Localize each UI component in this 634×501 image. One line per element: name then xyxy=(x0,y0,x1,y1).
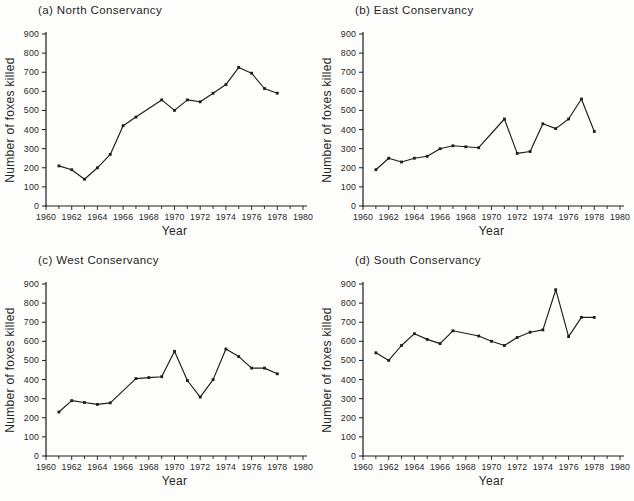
data-point xyxy=(83,178,86,181)
y-tick-label: 200 xyxy=(341,413,356,423)
series-line xyxy=(59,67,277,179)
y-tick-label: 300 xyxy=(24,144,39,154)
data-point xyxy=(542,122,545,125)
x-tick-label: 1980 xyxy=(610,462,630,472)
y-axis-label: Number of foxes killed xyxy=(320,57,334,182)
data-point xyxy=(263,87,266,90)
x-tick-label: 1966 xyxy=(430,462,450,472)
x-tick-label: 1966 xyxy=(113,212,133,222)
x-tick-label: 1976 xyxy=(559,212,579,222)
data-point xyxy=(490,340,493,343)
x-axis-label: Year xyxy=(479,474,504,488)
data-point xyxy=(593,130,596,133)
data-point xyxy=(173,350,176,353)
x-tick-label: 1962 xyxy=(379,462,399,472)
data-point xyxy=(237,66,240,69)
data-point xyxy=(593,316,596,319)
x-tick-label: 1970 xyxy=(481,462,501,472)
y-tick-label: 300 xyxy=(341,394,356,404)
x-tick-label: 1960 xyxy=(36,462,56,472)
y-tick-label: 900 xyxy=(24,279,39,289)
data-point xyxy=(160,99,163,102)
x-tick-label: 1964 xyxy=(404,212,424,222)
data-point xyxy=(122,124,125,127)
data-point xyxy=(413,332,416,335)
data-point xyxy=(109,402,112,405)
data-point xyxy=(503,118,506,121)
x-tick-label: 1960 xyxy=(353,212,373,222)
data-point xyxy=(426,338,429,341)
y-tick-label: 200 xyxy=(24,163,39,173)
x-tick-label: 1962 xyxy=(62,462,82,472)
x-tick-label: 1964 xyxy=(404,462,424,472)
data-point xyxy=(109,153,112,156)
x-tick-label: 1978 xyxy=(267,212,287,222)
y-tick-label: 600 xyxy=(24,336,39,346)
y-tick-label: 300 xyxy=(341,144,356,154)
data-point xyxy=(375,168,378,171)
data-point xyxy=(70,168,73,171)
data-point xyxy=(263,367,266,370)
y-axis-label: Number of foxes killed xyxy=(3,57,17,182)
data-point xyxy=(225,348,228,351)
x-axis-label: Year xyxy=(162,224,187,238)
x-tick-label: 1972 xyxy=(190,212,210,222)
data-point xyxy=(400,161,403,164)
y-tick-label: 0 xyxy=(34,451,39,461)
x-tick-label: 1966 xyxy=(113,462,133,472)
data-point xyxy=(387,359,390,362)
x-tick-label: 1964 xyxy=(87,212,107,222)
data-point xyxy=(135,116,138,119)
x-tick-label: 1978 xyxy=(584,462,604,472)
data-point xyxy=(439,147,442,150)
y-axis-label: Number of foxes killed xyxy=(3,307,17,432)
y-tick-label: 700 xyxy=(341,317,356,327)
y-tick-label: 600 xyxy=(341,336,356,346)
data-point xyxy=(186,379,189,382)
series-line xyxy=(376,290,594,361)
data-point xyxy=(503,344,506,347)
data-point xyxy=(580,98,583,101)
data-point xyxy=(147,376,150,379)
y-tick-label: 400 xyxy=(24,375,39,385)
data-point xyxy=(212,378,215,381)
x-tick-label: 1968 xyxy=(456,462,476,472)
x-tick-label: 1972 xyxy=(507,462,527,472)
y-tick-label: 100 xyxy=(24,182,39,192)
x-tick-label: 1980 xyxy=(293,462,313,472)
x-tick-label: 1974 xyxy=(533,462,553,472)
series-line xyxy=(59,349,277,412)
data-point xyxy=(70,399,73,402)
x-tick-label: 1968 xyxy=(139,212,159,222)
x-tick-label: 1970 xyxy=(164,212,184,222)
y-tick-label: 500 xyxy=(24,105,39,115)
y-tick-label: 200 xyxy=(341,163,356,173)
x-tick-label: 1976 xyxy=(559,462,579,472)
y-tick-label: 800 xyxy=(24,48,39,58)
data-point xyxy=(452,329,455,332)
data-point xyxy=(516,336,519,339)
x-tick-label: 1970 xyxy=(164,462,184,472)
y-tick-label: 100 xyxy=(341,182,356,192)
data-point xyxy=(250,72,253,75)
data-point xyxy=(400,344,403,347)
data-point xyxy=(173,109,176,112)
chart-plot-north: 0100200300400500600700800900196019621964… xyxy=(0,0,317,250)
data-point xyxy=(199,100,202,103)
y-tick-label: 800 xyxy=(341,48,356,58)
x-tick-label: 1974 xyxy=(216,212,236,222)
data-point xyxy=(225,83,228,86)
y-tick-label: 100 xyxy=(24,432,39,442)
chart-panel-east: (b) East Conservancy 0100200300400500600… xyxy=(317,0,634,250)
y-tick-label: 0 xyxy=(34,201,39,211)
chart-panel-west: (c) West Conservancy 0100200300400500600… xyxy=(0,250,317,501)
x-tick-label: 1960 xyxy=(353,462,373,472)
x-tick-label: 1978 xyxy=(584,212,604,222)
data-point xyxy=(199,396,202,399)
x-axis-label: Year xyxy=(479,224,504,238)
x-tick-label: 1974 xyxy=(216,462,236,472)
y-tick-label: 400 xyxy=(341,125,356,135)
y-tick-label: 900 xyxy=(24,29,39,39)
y-tick-label: 200 xyxy=(24,413,39,423)
y-tick-label: 700 xyxy=(24,67,39,77)
